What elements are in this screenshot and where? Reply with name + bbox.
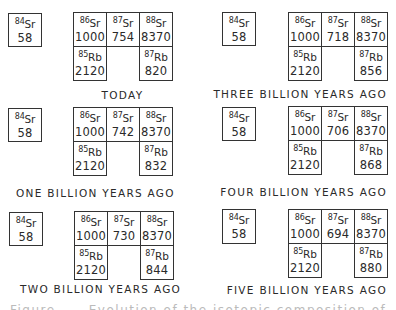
abundance-value: 8370 xyxy=(140,30,172,44)
abundance-value: 742 xyxy=(107,125,139,139)
abundance-value: 832 xyxy=(140,159,172,173)
element-symbol: Sr xyxy=(90,17,101,29)
abundance-value: 8370 xyxy=(355,227,387,241)
isotope-box-sr88: 88Sr 8370 xyxy=(354,106,388,141)
element-symbol: Rb xyxy=(303,51,317,63)
element-symbol: Rb xyxy=(369,248,383,260)
mass-number: 85 xyxy=(78,50,88,59)
isotope-box-sr84: 84Sr 58 xyxy=(222,107,256,141)
element-symbol: Rb xyxy=(303,145,317,157)
element-symbol: Sr xyxy=(157,216,168,228)
mass-number: 88 xyxy=(146,16,156,25)
isotope-box-rb87: 87Rb 844 xyxy=(140,245,174,280)
isotope-box-sr87: 87Sr 742 xyxy=(106,107,140,142)
isotope-box-sr86: 86Sr 1000 xyxy=(74,211,108,246)
isotope-grid: 86Sr 1000 87Sr 718 88Sr 8370 85Rb 2120 8… xyxy=(288,12,387,80)
mass-number: 87 xyxy=(113,111,123,120)
isotope-box-sr84: 84Sr 58 xyxy=(222,12,256,46)
isotope-box-sr88: 88Sr 8370 xyxy=(139,107,173,142)
isotope-box-sr88: 88Sr 8370 xyxy=(140,211,174,246)
isotope-box-sr84: 84Sr 58 xyxy=(8,108,42,142)
mass-number: 84 xyxy=(229,111,239,120)
mass-number: 85 xyxy=(293,50,303,59)
element-symbol: Sr xyxy=(124,216,135,228)
mass-number: 86 xyxy=(295,16,305,25)
isotope-box-sr86: 86Sr 1000 xyxy=(288,106,322,141)
mass-number: 86 xyxy=(81,215,91,224)
isotope-box-rb85: 85Rb 2120 xyxy=(74,245,108,280)
element-symbol: Sr xyxy=(371,111,382,123)
abundance-value: 2120 xyxy=(74,159,106,173)
isotope-box-sr87: 87Sr 718 xyxy=(321,12,355,47)
element-symbol: Sr xyxy=(305,214,316,226)
abundance-value: 1000 xyxy=(289,30,321,44)
abundance-value: 1000 xyxy=(74,30,106,44)
element-symbol: Rb xyxy=(369,145,383,157)
isotope-box-sr87: 87Sr 706 xyxy=(321,106,355,141)
panel-four-billion-years-ago: 84Sr 58 86Sr 1000 87Sr 706 88Sr 8370 85R… xyxy=(222,107,396,199)
isotope-box-sr84: 84Sr 58 xyxy=(9,212,43,246)
element-symbol: Rb xyxy=(154,51,168,63)
mass-number: 87 xyxy=(359,50,369,59)
isotope-box-sr86: 86Sr 1000 xyxy=(288,209,322,244)
element-symbol: Sr xyxy=(338,111,349,123)
abundance-value: 1000 xyxy=(74,125,106,139)
element-symbol: Sr xyxy=(305,111,316,123)
mass-number: 86 xyxy=(80,16,90,25)
abundance-value: 58 xyxy=(10,230,42,244)
element-symbol: Sr xyxy=(90,112,101,124)
element-symbol: Sr xyxy=(371,214,382,226)
mass-number: 88 xyxy=(147,215,157,224)
element-symbol: Rb xyxy=(89,250,103,262)
abundance-value: 1000 xyxy=(289,227,321,241)
isotope-box-sr87: 87Sr 730 xyxy=(107,211,141,246)
element-symbol: Sr xyxy=(123,17,134,29)
isotope-box-sr87: 87Sr 694 xyxy=(321,209,355,244)
abundance-value: 58 xyxy=(223,227,255,241)
isotope-box-rb85: 85Rb 2120 xyxy=(288,46,322,81)
abundance-value: 694 xyxy=(322,227,354,241)
abundance-value: 2120 xyxy=(74,64,106,78)
figure-caption: Figure ___ Evolution of the isotopic com… xyxy=(10,300,396,310)
mass-number: 85 xyxy=(293,247,303,256)
abundance-value: 8370 xyxy=(141,229,173,243)
isotope-box-rb85: 85Rb 2120 xyxy=(288,140,322,175)
mass-number: 88 xyxy=(361,110,371,119)
isotope-box-sr87: 87Sr 754 xyxy=(106,12,140,47)
mass-number: 85 xyxy=(78,145,88,154)
mass-number: 87 xyxy=(328,110,338,119)
element-symbol: Sr xyxy=(25,18,36,30)
element-symbol: Rb xyxy=(154,146,168,158)
abundance-value: 8370 xyxy=(355,30,387,44)
element-symbol: Sr xyxy=(156,112,167,124)
isotope-box-rb85: 85Rb 2120 xyxy=(73,141,107,176)
panel-label: FIVE BILLION YEARS AGO xyxy=(22,284,387,296)
isotope-box-sr88: 88Sr 8370 xyxy=(354,12,388,47)
element-symbol: Rb xyxy=(155,250,169,262)
isotope-box-rb87: 87Rb 880 xyxy=(354,243,388,278)
abundance-value: 820 xyxy=(140,64,172,78)
mass-number: 86 xyxy=(295,110,305,119)
abundance-value: 8370 xyxy=(140,125,172,139)
panel-label: FOUR BILLION YEARS AGO xyxy=(22,186,387,198)
mass-number: 84 xyxy=(229,213,239,222)
mass-number: 87 xyxy=(144,50,154,59)
abundance-value: 2120 xyxy=(289,261,321,275)
mass-number: 84 xyxy=(15,17,25,26)
abundance-value: 1000 xyxy=(75,229,107,243)
mass-number: 87 xyxy=(144,145,154,154)
mass-number: 87 xyxy=(328,213,338,222)
abundance-value: 844 xyxy=(141,263,173,277)
isotope-box-sr84: 84Sr 58 xyxy=(222,209,256,244)
element-symbol: Rb xyxy=(369,51,383,63)
abundance-value: 718 xyxy=(322,30,354,44)
element-symbol: Sr xyxy=(371,17,382,29)
abundance-value: 58 xyxy=(9,31,41,45)
abundance-value: 58 xyxy=(223,30,255,44)
element-symbol: Sr xyxy=(123,112,134,124)
isotope-grid: 86Sr 1000 87Sr 694 88Sr 8370 85Rb 2120 8… xyxy=(288,209,387,277)
element-symbol: Sr xyxy=(156,17,167,29)
isotope-grid: 86Sr 1000 87Sr 742 88Sr 8370 85Rb 2120 8… xyxy=(73,107,172,175)
abundance-value: 2120 xyxy=(75,263,107,277)
abundance-value: 880 xyxy=(355,261,387,275)
